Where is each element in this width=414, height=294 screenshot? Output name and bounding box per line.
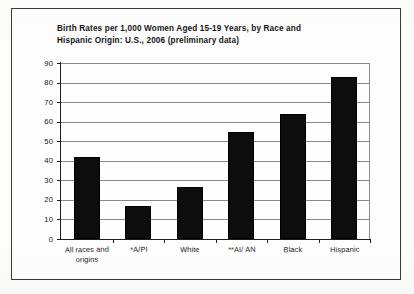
x-tick-mark xyxy=(370,240,371,243)
y-tick-label: 10 xyxy=(31,215,53,224)
x-tick-label: White xyxy=(164,244,216,255)
figure-container: Birth Rates per 1,000 Women Aged 15-19 Y… xyxy=(0,0,414,294)
bar xyxy=(177,187,203,239)
gridline xyxy=(61,200,370,201)
y-tick-label: 20 xyxy=(31,195,53,204)
bar xyxy=(331,77,357,239)
gridline xyxy=(61,102,370,103)
x-tick-label: *A/PI xyxy=(113,244,165,255)
plot-right-border xyxy=(369,63,370,239)
bar xyxy=(125,206,151,239)
y-tick-label: 50 xyxy=(31,137,53,146)
gridline xyxy=(61,141,370,142)
bar xyxy=(74,157,100,239)
x-tick-mark xyxy=(267,240,268,243)
gridline xyxy=(61,219,370,220)
gridline xyxy=(61,161,370,162)
y-axis-line xyxy=(60,62,61,240)
bar xyxy=(280,114,306,239)
y-tick-label: 30 xyxy=(31,176,53,185)
y-tick-label: 70 xyxy=(31,98,53,107)
x-tick-mark xyxy=(216,240,217,243)
y-tick-label: 80 xyxy=(31,78,53,87)
chart-title: Birth Rates per 1,000 Women Aged 15-19 Y… xyxy=(57,23,377,46)
plot-area xyxy=(61,63,370,239)
gridline xyxy=(61,63,370,64)
gridline xyxy=(61,180,370,181)
x-tick-label: **AI/ AN xyxy=(216,244,268,255)
x-tick-label: Hispanic xyxy=(319,244,371,255)
x-tick-mark xyxy=(164,240,165,243)
y-tick-label: 60 xyxy=(31,117,53,126)
x-tick-mark xyxy=(319,240,320,243)
gridline xyxy=(61,122,370,123)
x-tick-label: All races and origins xyxy=(61,244,113,264)
bar xyxy=(228,132,254,239)
y-tick-label: 0 xyxy=(31,235,53,244)
y-tick-label: 90 xyxy=(31,59,53,68)
x-tick-mark xyxy=(113,240,114,243)
y-tick-label: 40 xyxy=(31,156,53,165)
gridline xyxy=(61,83,370,84)
x-tick-label: Black xyxy=(267,244,319,255)
